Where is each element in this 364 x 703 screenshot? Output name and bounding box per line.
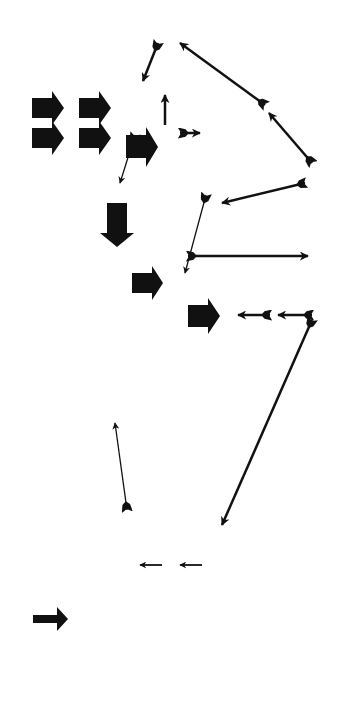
- tamponade-diagram: [0, 0, 320, 703]
- figure-page: [0, 0, 364, 703]
- tailed-arrows: [115, 43, 312, 565]
- heavy-arrows: [33, 607, 68, 631]
- heavy-block-arrows: [32, 91, 220, 334]
